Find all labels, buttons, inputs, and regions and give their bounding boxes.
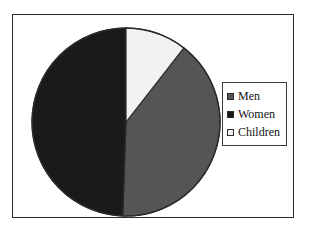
legend-label-children: Children	[238, 126, 280, 138]
pie-slice-women[interactable]	[32, 28, 126, 216]
legend-swatch-women	[227, 111, 234, 118]
pie-chart-figure: Men Women Children	[0, 0, 310, 233]
legend-label-men: Men	[238, 90, 260, 102]
pie-graphic	[28, 24, 224, 220]
pie-slice-group	[32, 28, 220, 216]
legend-item-men[interactable]: Men	[227, 87, 280, 105]
legend-swatch-children	[227, 129, 234, 136]
legend-label-women: Women	[238, 108, 275, 120]
legend-swatch-men	[227, 93, 234, 100]
legend-item-women[interactable]: Women	[227, 105, 280, 123]
chart-plot-frame: Men Women Children	[12, 14, 294, 218]
chart-legend: Men Women Children	[222, 82, 287, 146]
pie-svg	[28, 24, 224, 220]
legend-item-children[interactable]: Children	[227, 123, 280, 141]
